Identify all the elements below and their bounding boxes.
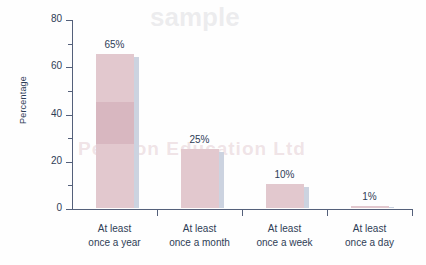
y-tick-minor bbox=[68, 44, 72, 45]
y-tick-label: 0 bbox=[56, 202, 62, 213]
bar-value-label: 25% bbox=[175, 134, 225, 145]
x-category-label-line1: At least bbox=[353, 223, 386, 234]
x-tick-separator bbox=[412, 209, 413, 216]
y-tick-label: 80 bbox=[51, 13, 62, 24]
x-category-label-line1: At least bbox=[183, 223, 216, 234]
y-tick-label: 40 bbox=[51, 108, 62, 119]
x-tick-separator bbox=[327, 209, 328, 216]
x-category-label: At leastonce a week bbox=[240, 222, 330, 250]
y-tick-minor bbox=[68, 91, 72, 92]
bar bbox=[266, 184, 304, 208]
y-tick-label: 60 bbox=[51, 60, 62, 71]
x-category-label-line2: once a month bbox=[155, 236, 245, 250]
bar bbox=[181, 149, 219, 208]
x-category-label-line2: once a week bbox=[240, 236, 330, 250]
y-tick-major: 20 bbox=[66, 162, 72, 163]
bar-value-label: 1% bbox=[345, 191, 395, 202]
bar-value-label: 65% bbox=[90, 39, 140, 50]
y-axis-title: Percentage bbox=[18, 55, 28, 145]
x-category-label: At leastonce a month bbox=[155, 222, 245, 250]
plot-area: 020406080 65%25%10%1% bbox=[72, 20, 412, 209]
x-category-label-line1: At least bbox=[98, 223, 131, 234]
bar bbox=[351, 206, 389, 208]
y-tick-major: 60 bbox=[66, 67, 72, 68]
x-category-label: At leastonce a day bbox=[325, 222, 415, 250]
x-category-label-line2: once a day bbox=[325, 236, 415, 250]
x-category-label-line1: At least bbox=[268, 223, 301, 234]
bar-chart: sample Pearson Education Ltd Percentage … bbox=[0, 0, 426, 265]
y-tick-major: 40 bbox=[66, 115, 72, 116]
y-tick-minor bbox=[68, 185, 72, 186]
bar bbox=[96, 54, 134, 208]
y-tick-minor bbox=[68, 138, 72, 139]
x-tick-separator bbox=[157, 209, 158, 216]
x-category-label: At leastonce a year bbox=[70, 222, 160, 250]
x-tick-separator bbox=[242, 209, 243, 216]
y-tick-major: 0 bbox=[66, 209, 72, 210]
y-tick-major: 80 bbox=[66, 20, 72, 21]
y-axis-line bbox=[72, 20, 73, 210]
bar-value-label: 10% bbox=[260, 169, 310, 180]
bar-texture-band bbox=[96, 102, 134, 143]
y-tick-label: 20 bbox=[51, 155, 62, 166]
x-category-label-line2: once a year bbox=[70, 236, 160, 250]
